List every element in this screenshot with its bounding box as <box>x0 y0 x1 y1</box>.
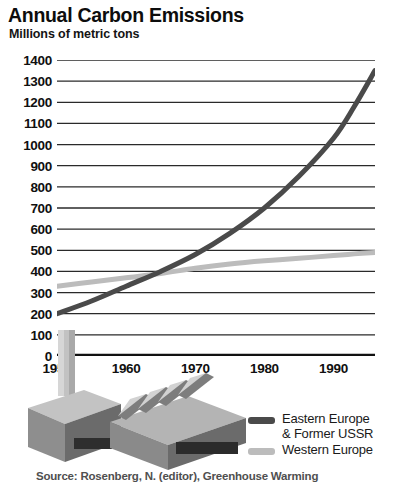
y-tick-label: 800 <box>8 179 52 194</box>
chart-subtitle: Millions of metric tons <box>9 27 139 41</box>
legend-label-western-europe: Western Europe <box>282 443 373 458</box>
legend-swatch-western-europe <box>248 448 275 455</box>
legend-swatch-eastern-europe <box>248 417 275 424</box>
factory-illustration <box>6 330 251 475</box>
factory-window-left <box>74 438 112 449</box>
y-tick-label: 400 <box>8 264 52 279</box>
legend-label-eastern-europe: Eastern Europe & Former USSR <box>282 412 373 441</box>
legend-item-eastern-europe: Eastern Europe & Former USSR <box>248 412 393 441</box>
carbon-emissions-chart: Annual Carbon Emissions Millions of metr… <box>0 0 393 483</box>
x-tick-label: 1980 <box>250 361 279 376</box>
plot-svg <box>57 60 375 356</box>
y-tick-label: 1200 <box>8 95 52 110</box>
source-note: Source: Rosenberg, N. (editor), Greenhou… <box>36 470 393 482</box>
factory-window-right <box>176 442 238 454</box>
y-tick-label: 200 <box>8 306 52 321</box>
legend-label-line2: & Former USSR <box>282 426 373 441</box>
y-tick-label: 700 <box>8 201 52 216</box>
y-axis-labels: 1400130012001100100090080070060050040030… <box>0 60 52 356</box>
series-line <box>57 71 375 314</box>
series-line <box>57 252 375 286</box>
plot-area <box>57 60 375 356</box>
y-tick-label: 600 <box>8 222 52 237</box>
chart-title: Annual Carbon Emissions <box>8 4 244 27</box>
series-lines <box>57 71 375 314</box>
y-tick-label: 300 <box>8 285 52 300</box>
x-tick-label: 1990 <box>319 361 348 376</box>
legend-item-western-europe: Western Europe <box>248 443 393 458</box>
legend-label-line1: Eastern Europe <box>282 411 370 426</box>
y-tick-label: 900 <box>8 158 52 173</box>
y-tick-label: 1400 <box>8 53 52 68</box>
y-tick-label: 1100 <box>8 116 52 131</box>
y-tick-label: 500 <box>8 243 52 258</box>
smokestack-icon <box>58 330 75 396</box>
y-tick-label: 1000 <box>8 137 52 152</box>
chart-legend: Eastern Europe & Former USSR Western Eur… <box>248 412 393 460</box>
y-tick-label: 1300 <box>8 74 52 89</box>
